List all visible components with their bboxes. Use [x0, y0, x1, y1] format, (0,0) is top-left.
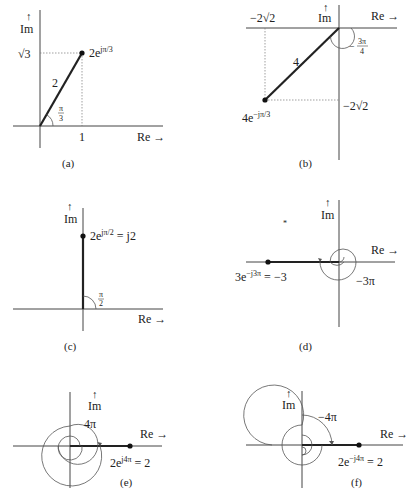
point-label: 2e−j4π = 2: [338, 454, 383, 469]
angle-label: −3π: [356, 274, 375, 288]
point-label-base: 2e: [110, 456, 121, 470]
angle-numerator: 3π: [358, 37, 366, 46]
point-label-base: 4e: [242, 111, 253, 125]
phasor-point: [262, 97, 267, 102]
point-label: 2ejπ/2 = j2: [90, 228, 136, 243]
point-label-exponent: −j3π: [246, 269, 261, 278]
caption: (c): [64, 340, 77, 353]
caption: (e): [120, 476, 133, 489]
angle-denominator: 4: [360, 47, 364, 56]
angle-sign: −: [349, 41, 355, 52]
panel-d: ↑ Im Re → −3π * 3e−j3π = −3 (d): [235, 196, 399, 353]
point-label-base: 3e: [235, 270, 246, 284]
re-label: Re →: [138, 312, 166, 326]
im-label: Im: [321, 208, 335, 222]
point-label-tail: = j2: [114, 229, 136, 243]
re-label: Re →: [371, 243, 399, 257]
im-label: Im: [318, 11, 332, 25]
caption: (f): [351, 476, 362, 489]
y-tick-label: −2√2: [343, 99, 368, 113]
angle-label: −4π: [318, 410, 337, 424]
panel-f: ↑ Im Re → −4π 2e−j4π = 2 (f): [244, 385, 409, 489]
magnitude-label: 2: [52, 76, 58, 90]
point-label-base: 2e: [338, 455, 349, 469]
panel-b: ↑ Im Re → −2√2 −2√2 4 − 3π 4 4e−jπ/3 (b): [242, 1, 399, 170]
phasor-point: [79, 50, 84, 55]
im-label: Im: [282, 398, 296, 412]
re-label: Re →: [371, 9, 399, 23]
im-label: Im: [88, 399, 102, 413]
angle-denominator: 3: [59, 114, 63, 123]
angle-numerator: π: [99, 290, 103, 299]
point-label-tail: = 2: [364, 455, 383, 469]
x-tick-label: 1: [79, 130, 85, 144]
angle-arc: [47, 115, 54, 126]
angle-label: 4π: [84, 417, 96, 431]
im-arrow: ↑: [67, 200, 73, 212]
im-label: Im: [20, 22, 34, 36]
phasor-point: [356, 442, 361, 447]
point-label-exponent: −jπ/3: [253, 110, 270, 119]
im-label: Im: [64, 212, 78, 226]
re-label: Re →: [380, 427, 408, 441]
magnitude-label: 4: [293, 55, 299, 69]
point-label-exponent: jπ/2: [100, 228, 113, 237]
point-label: 2ej4π = 2: [110, 455, 150, 470]
phasor-point: [127, 443, 132, 448]
im-arrow: ↑: [26, 10, 32, 22]
panel-c: ↑ Im Re → π 2 2ejπ/2 = j2 (c): [13, 200, 166, 353]
point-label: 3e−j3π = −3: [235, 269, 287, 284]
re-label: Re →: [140, 427, 168, 441]
angle-denominator: 2: [99, 299, 103, 308]
caption: (b): [299, 157, 312, 170]
point-label-exponent: −j4π: [349, 454, 364, 463]
point-label-tail: = 2: [132, 456, 151, 470]
x-tick-label: −2√2: [250, 11, 275, 25]
phasor-vector: [265, 28, 339, 100]
complex-plane-figure: ↑ Im Re → √3 1 2 π 3 2ejπ/3 (a) ↑ Im Re …: [0, 0, 415, 499]
point-label-base: 2e: [90, 229, 101, 243]
point-label: 2ejπ/3: [89, 45, 113, 60]
point-label: 4e−jπ/3: [242, 110, 270, 125]
angle-spiral: [42, 424, 102, 486]
caption: (d): [299, 340, 312, 353]
caption: (a): [62, 157, 75, 170]
im-arrow: ↑: [325, 196, 331, 208]
phasor-point: [265, 259, 270, 264]
angle-arc: [83, 296, 96, 309]
angle-spiral: [320, 249, 356, 280]
stray-mark: *: [283, 219, 287, 228]
re-label: Re →: [137, 130, 165, 144]
panel-e: ↑ Im Re → 4π 2ej4π = 2 (e): [13, 388, 168, 489]
point-label-tail: = −3: [261, 270, 287, 284]
angle-numerator: π: [59, 104, 63, 113]
phasor-point: [80, 233, 85, 238]
point-label-base: 2e: [89, 46, 100, 60]
point-label-exponent: jπ/3: [99, 45, 112, 54]
panel-a: ↑ Im Re → √3 1 2 π 3 2ejπ/3 (a): [13, 10, 165, 170]
point-label-exponent: j4π: [120, 455, 131, 464]
y-tick-label: √3: [18, 47, 31, 61]
